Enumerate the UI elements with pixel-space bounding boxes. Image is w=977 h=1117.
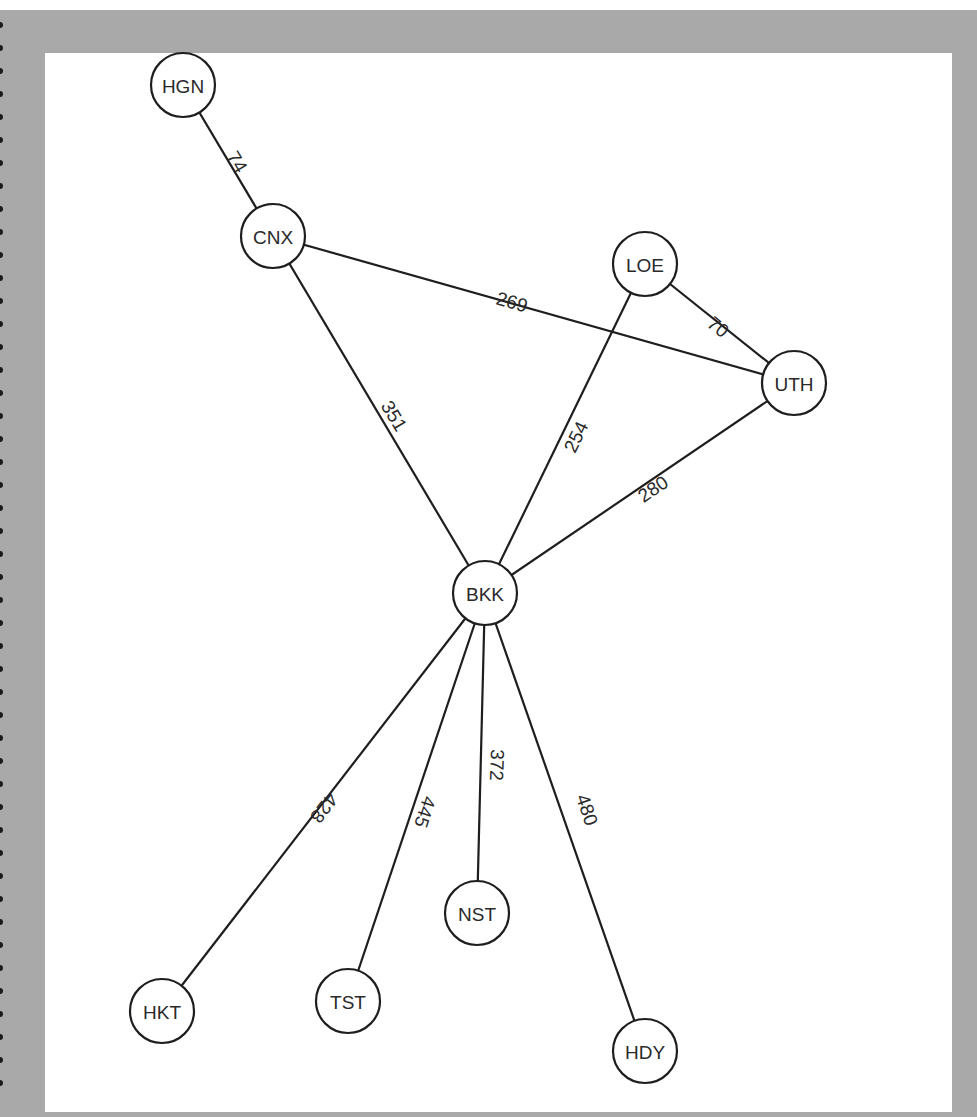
- node-label: CNX: [253, 227, 293, 248]
- edge-weight-label: 372: [486, 749, 508, 781]
- node-label: LOE: [626, 255, 664, 276]
- edge-weight-label: 445: [410, 794, 440, 831]
- edge-weight-label: 351: [377, 397, 411, 435]
- edge-weight-label: 70: [703, 312, 733, 342]
- node-label: TST: [330, 992, 366, 1013]
- node-tst: TST: [316, 969, 380, 1033]
- edge-weight-label: 280: [634, 471, 672, 506]
- edge-bkk-nst: [477, 593, 485, 913]
- node-bkk: BKK: [453, 561, 517, 625]
- node-label: UTH: [774, 374, 813, 395]
- node-uth: UTH: [762, 351, 826, 415]
- nodes-layer: HGNCNXLOEUTHBKKNSTHKTTSTHDY: [130, 53, 826, 1083]
- node-hdy: HDY: [613, 1019, 677, 1083]
- node-label: HKT: [143, 1002, 181, 1023]
- route-graph: 7426970351254280428445372480 HGNCNXLOEUT…: [0, 0, 977, 1117]
- node-label: HDY: [625, 1042, 665, 1063]
- node-cnx: CNX: [241, 204, 305, 268]
- edge-weight-label: 480: [572, 792, 602, 829]
- node-nst: NST: [445, 881, 509, 945]
- node-label: HGN: [162, 76, 204, 97]
- node-loe: LOE: [613, 232, 677, 296]
- edge-weight-label: 74: [223, 148, 252, 177]
- edge-weight-label: 269: [494, 288, 530, 317]
- edge-weight-label: 428: [306, 789, 342, 827]
- node-hgn: HGN: [151, 53, 215, 117]
- edge-weight-label: 254: [560, 418, 593, 456]
- edge-cnx-uth: [273, 236, 794, 383]
- node-hkt: HKT: [130, 979, 194, 1043]
- edge-cnx-bkk: [273, 236, 485, 593]
- edge-bkk-hdy: [485, 593, 645, 1051]
- edge-bkk-loe: [485, 264, 645, 593]
- node-label: NST: [458, 904, 496, 925]
- node-label: BKK: [466, 584, 504, 605]
